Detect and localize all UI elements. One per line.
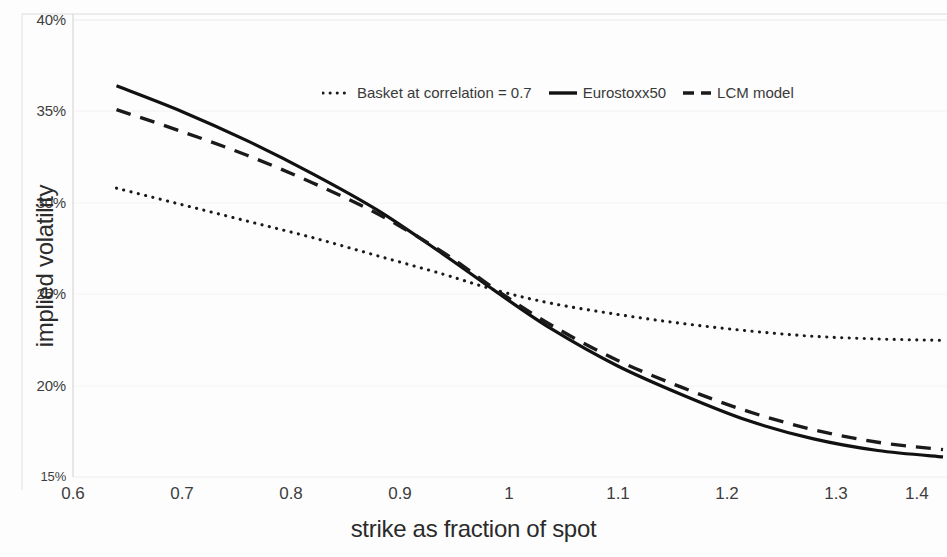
y-tick-label-15: 15% bbox=[6, 469, 66, 484]
x-tick-label-0-7: 0.7 bbox=[142, 484, 222, 504]
x-tick-label-1-3: 1.3 bbox=[796, 484, 876, 504]
x-axis-title: strike as fraction of spot bbox=[0, 515, 947, 543]
series-line-lcm-model bbox=[117, 110, 944, 450]
x-tick-label-1-1: 1.1 bbox=[578, 484, 658, 504]
solid-line-icon bbox=[548, 87, 578, 99]
x-tick-label-1: 1 bbox=[469, 484, 549, 504]
dotted-line-icon bbox=[322, 87, 352, 99]
x-tick-label-1-4: 1.4 bbox=[905, 484, 947, 504]
dashed-line-icon bbox=[682, 87, 712, 99]
legend-label-basket: Basket at correlation = 0.7 bbox=[357, 84, 532, 101]
y-axis-title: implied volatility bbox=[31, 116, 59, 416]
series-line-eurostoxx50 bbox=[117, 86, 944, 457]
x-tick-label-0-8: 0.8 bbox=[251, 484, 331, 504]
legend-item-lcm-model[interactable]: LCM model bbox=[682, 84, 794, 101]
implied-volatility-chart: 40% 35% 30% 25% 20% 15% 0.6 0.7 0.8 0.9 … bbox=[0, 0, 947, 557]
x-tick-label-0-9: 0.9 bbox=[360, 484, 440, 504]
legend-item-basket[interactable]: Basket at correlation = 0.7 bbox=[322, 84, 532, 101]
legend-label-eurostoxx50: Eurostoxx50 bbox=[583, 84, 666, 101]
series-line-basket bbox=[117, 188, 944, 340]
chart-legend: Basket at correlation = 0.7 Eurostoxx50 … bbox=[322, 84, 794, 101]
legend-item-eurostoxx50[interactable]: Eurostoxx50 bbox=[548, 84, 666, 101]
x-tick-label-0-6: 0.6 bbox=[33, 484, 113, 504]
legend-label-lcm-model: LCM model bbox=[717, 84, 794, 101]
x-tick-label-1-2: 1.2 bbox=[687, 484, 767, 504]
y-tick-label-40: 40% bbox=[6, 11, 66, 28]
